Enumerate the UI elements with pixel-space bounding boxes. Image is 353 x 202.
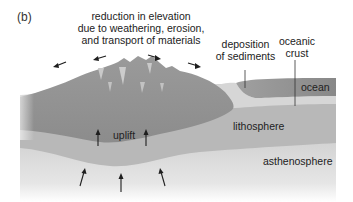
oceanic-crust-label-line: oceanic (274, 35, 320, 47)
deposition-label-line: of sediments (208, 50, 283, 62)
panel-label: (b) (17, 10, 32, 24)
erosion-label-line: and transport of materials (66, 34, 216, 46)
deposition-label-line: deposition (208, 38, 283, 50)
oceanic-crust-label: oceanic crust (274, 35, 320, 59)
uplift-label: uplift (113, 129, 135, 141)
ocean-label: ocean (301, 81, 330, 93)
erosion-label-line: due to weathering, erosion, (66, 22, 216, 34)
oceanic-crust-label-line: crust (274, 47, 320, 59)
diagram-canvas: (b) reduction in elevation due to weathe… (0, 0, 353, 202)
asthenosphere-label: asthenosphere (263, 155, 332, 167)
erosion-label-line: reduction in elevation (66, 10, 216, 22)
deposition-label: deposition of sediments (208, 38, 283, 62)
erosion-label: reduction in elevation due to weathering… (66, 10, 216, 46)
lithosphere-label: lithosphere (233, 120, 284, 132)
